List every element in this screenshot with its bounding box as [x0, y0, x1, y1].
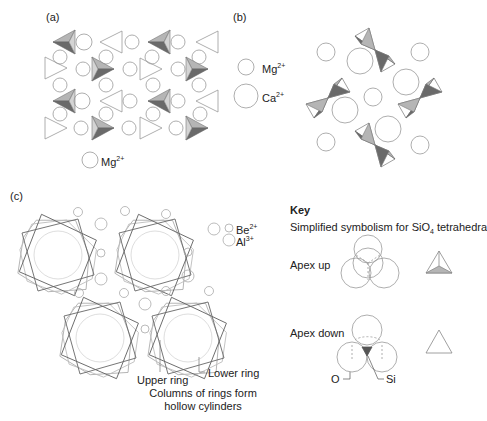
panel-a-label: (a) — [46, 12, 59, 23]
ion-charge: 2+ — [277, 62, 285, 69]
key-title: Key — [290, 205, 310, 216]
ion-charge: 3+ — [246, 235, 254, 242]
apex-down-label: Apex down — [290, 328, 344, 339]
panel-c-label: (c) — [10, 191, 23, 202]
ion-name: Be — [236, 224, 249, 236]
ion-charge: 2+ — [249, 223, 257, 230]
panel-b-legend-ca: Ca2+ — [262, 91, 284, 104]
ion-name: Mg — [101, 156, 116, 168]
key-subtitle: Simplified symbolism for SiO4 tetrahedra — [290, 222, 487, 235]
panel-c-legend-al: Al3+ — [236, 235, 254, 248]
panel-b-legend-mg: Mg2+ — [262, 62, 285, 75]
caption-line-2: hollow cylinders — [140, 401, 266, 412]
panel-c-structure — [9, 206, 236, 386]
oxygen-label: O — [331, 374, 340, 385]
ion-name: Al — [236, 236, 246, 248]
ion-name: Ca — [262, 92, 276, 104]
caption-line-1: Columns of rings form — [140, 388, 266, 399]
panel-a-legend-mg: Mg2+ — [101, 155, 124, 168]
ion-name: Mg — [262, 63, 277, 75]
key-subtitle-text: Simplified symbolism for SiO — [290, 221, 430, 233]
apex-up-label: Apex up — [290, 260, 330, 271]
upper-ring-label: Upper ring — [137, 375, 188, 386]
panel-b-label: (b) — [233, 12, 246, 23]
panel-c-legend-be: Be2+ — [236, 223, 257, 236]
ion-charge: 2+ — [116, 155, 124, 162]
silicon-label: Si — [386, 374, 396, 385]
lower-ring-label: Lower ring — [208, 368, 259, 379]
key-subtitle-post: tetrahedra — [434, 221, 487, 233]
panel-a-structure — [45, 30, 218, 168]
ion-charge: 2+ — [276, 91, 284, 98]
key-graphics — [337, 235, 452, 379]
